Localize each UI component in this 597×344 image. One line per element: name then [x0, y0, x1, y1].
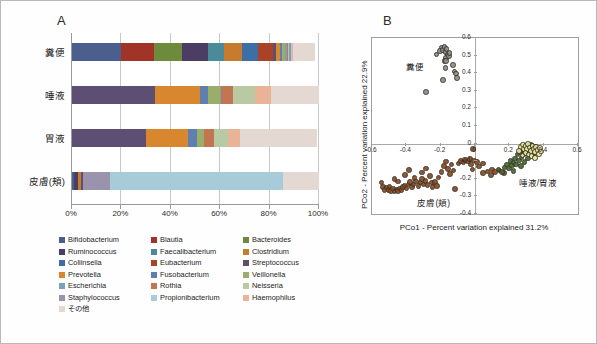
pcoa-y-tick-mark: [474, 90, 477, 91]
pcoa-x-tick-label-2: -0.2: [429, 146, 451, 153]
legend-swatch-icon: [151, 249, 157, 255]
pcoa-y-tick-label-0: -0.4: [453, 209, 471, 216]
legend-item-Clostridium: Clostridium: [243, 247, 335, 257]
scatter-point-皮膚(頬): [434, 183, 440, 189]
pcoa-y-tick-mark: [474, 72, 477, 73]
scatter-point-皮膚(頬): [480, 161, 486, 167]
legend-item-Rothia: Rothia: [151, 281, 243, 291]
scatter-point-皮膚(頬): [488, 172, 494, 178]
legend-swatch-icon: [59, 295, 65, 301]
x-tick-label-0: 0%: [54, 209, 88, 218]
scatter-point-糞便: [423, 89, 429, 95]
legend-item-Bacteroides: Bacteroides: [243, 235, 335, 245]
legend-swatch-icon: [151, 283, 157, 289]
bar-segment-Bifidobacterium: [72, 43, 121, 61]
legend-label: Staphylococcus: [68, 293, 120, 303]
legend-swatch-icon: [151, 272, 157, 278]
legend-label: Veillonella: [252, 270, 285, 280]
x-tick-label-5: 100%: [301, 209, 335, 218]
legend-swatch-icon: [243, 249, 249, 255]
x-tick-label-2: 40%: [153, 209, 187, 218]
legend-item-Veillonella: Veillonella: [243, 270, 335, 280]
bar-segment-Prevotella: [146, 129, 188, 147]
legend-label: Streptococcus: [252, 258, 299, 268]
legend-swatch-icon: [151, 295, 157, 301]
scatter-point-糞便: [447, 50, 453, 56]
pcoa-y-tick-mark: [474, 125, 477, 126]
pcoa-y-tick-mark: [474, 195, 477, 196]
scatter-point-皮膚(頬): [427, 173, 433, 179]
stacked-bar-chart: [71, 33, 319, 205]
scatter-point-糞便: [443, 65, 449, 71]
legend-swatch-icon: [151, 237, 157, 243]
pcoa-x-tick-label-1: -0.4: [394, 146, 416, 153]
pcoa-scatter-plot: 糞便皮膚(頬)唾液/胃液: [371, 37, 579, 215]
legend-item-Haemophilus: Haemophilus: [243, 293, 335, 303]
legend-item-Faecalibacterium: Faecalibacterium: [151, 247, 243, 257]
pcoa-horizontal-zero-axis: [372, 144, 578, 145]
pcoa-y-tick-mark: [474, 178, 477, 179]
bar-segment-Propionibacterium: [110, 172, 283, 190]
legend-label: Clostridium: [252, 247, 289, 257]
scatter-point-皮膚(頬): [423, 166, 429, 172]
legend-swatch-icon: [243, 283, 249, 289]
legend-label: その他: [68, 304, 89, 314]
bar-row: [72, 172, 319, 190]
legend-swatch-icon: [59, 306, 65, 312]
panel-b: B PCo2 - Percent variation explained 22.…: [351, 1, 597, 344]
scatter-point-唾液/胃液-light: [532, 155, 538, 161]
bar-segment-その他: [293, 43, 315, 61]
legend-label: Blautia: [160, 235, 183, 245]
legend-swatch-icon: [59, 237, 65, 243]
pcoa-y-tick-label-2: -0.2: [453, 174, 471, 181]
bar-segment-Streptococcus: [72, 86, 155, 104]
bar-row: [72, 129, 319, 147]
panel-b-letter: B: [383, 13, 392, 28]
bar-segment-Blautia: [121, 43, 153, 61]
bar-category-label-2: 胃液: [1, 131, 65, 145]
y-axis-line: [71, 33, 72, 205]
pcoa-y-tick-mark: [474, 55, 477, 56]
x-tick-label-1: 20%: [103, 209, 137, 218]
legend-item-Streptococcus: Streptococcus: [243, 258, 335, 268]
legend-label: Haemophilus: [252, 293, 295, 303]
bar-row: [72, 86, 319, 104]
legend-swatch-icon: [59, 260, 65, 266]
pcoa-x-tick-label-0: -0.6: [360, 146, 382, 153]
bar-segment-Eubacterium: [258, 43, 273, 61]
bar-category-label-3: 皮膚(頬): [1, 174, 65, 188]
legend-row: RuminococcusFaecalibacteriumClostridium: [59, 247, 339, 257]
scatter-point-皮膚(頬): [439, 169, 445, 175]
bar-segment-Haemophilus: [228, 129, 240, 147]
scatter-point-唾液/胃液: [511, 168, 517, 174]
legend-label: Faecalibacterium: [160, 247, 216, 257]
pcoa-y-tick-label-6: 0.2: [453, 103, 471, 110]
legend-label: Escherichia: [68, 281, 106, 291]
bar-segment-その他: [283, 172, 319, 190]
legend-item-Blautia: Blautia: [151, 235, 243, 245]
scatter-point-皮膚(頬): [436, 175, 442, 181]
pcoa-y-tick-label-1: -0.3: [453, 191, 471, 198]
legend-label: Neisseria: [252, 281, 283, 291]
bar-segment-Collinsella: [242, 43, 258, 61]
bar-segment-Veillonella: [197, 129, 204, 147]
bar-category-label-0: 糞便: [1, 45, 65, 59]
legend-label: Eubacterium: [160, 258, 202, 268]
pcoa-y-tick-label-7: 0.3: [453, 86, 471, 93]
bar-segment-Prevotella: [155, 86, 201, 104]
legend-label: Propionibacterium: [160, 293, 220, 303]
x-tick-label-3: 60%: [202, 209, 236, 218]
pcoa-vertical-zero-axis: [475, 38, 476, 214]
bar-segment-Rothia: [221, 86, 232, 104]
legend-swatch-icon: [243, 260, 249, 266]
pcoa-y-tick-label-10: 0.6: [453, 33, 471, 40]
cluster-label-糞便: 糞便: [406, 60, 424, 72]
legend-label: Bacteroides: [252, 235, 291, 245]
legend-item-Ruminococcus: Ruminococcus: [59, 247, 151, 257]
legend-row: CollinsellaEubacteriumStreptococcus: [59, 258, 339, 268]
bar-segment-Neisseria: [233, 86, 255, 104]
cluster-label-皮膚(頬): 皮膚(頬): [417, 196, 450, 208]
pcoa-x-tick-label-6: 0.6: [566, 146, 588, 153]
bar-segment-Veillonella: [208, 86, 220, 104]
legend-label: Ruminococcus: [68, 247, 116, 257]
